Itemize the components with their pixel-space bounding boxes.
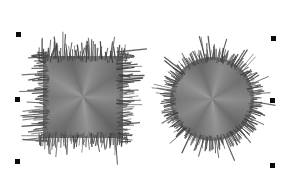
selection-handle-top-right[interactable]: [271, 36, 276, 41]
selection-handle-middle-left[interactable]: [15, 97, 20, 102]
selection-handle-bottom-right[interactable]: [270, 163, 275, 168]
fringed-circle-object[interactable]: [170, 57, 254, 141]
fringed-square-object[interactable]: [43, 56, 123, 138]
selection-handle-bottom-left[interactable]: [15, 159, 20, 164]
selection-handle-top-left[interactable]: [16, 32, 21, 37]
selection-handle-middle-right[interactable]: [270, 98, 275, 103]
design-canvas[interactable]: [0, 0, 289, 174]
